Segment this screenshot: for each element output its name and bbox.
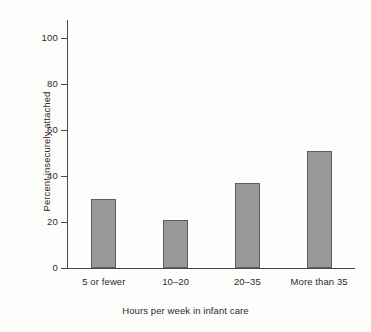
y-axis-tick [61, 38, 67, 39]
y-axis-tick [61, 268, 67, 269]
bar [307, 151, 332, 268]
y-axis-tick-label: 60 [18, 125, 58, 135]
y-axis-tick-label: 0 [18, 263, 58, 273]
plot-area [68, 38, 355, 268]
x-axis-line [67, 268, 355, 269]
y-axis-tick-label: 100 [18, 33, 58, 43]
x-axis-title: Hours per week in infant care [0, 305, 371, 316]
y-axis-tick-label: 20 [18, 217, 58, 227]
y-axis-tick [61, 130, 67, 131]
y-axis-tick-label: 40 [18, 171, 58, 181]
y-axis-tick [61, 84, 67, 85]
y-axis-tick [61, 222, 67, 223]
bar [163, 220, 188, 268]
y-axis-tick-label: 80 [18, 79, 58, 89]
bar [235, 183, 260, 268]
y-axis-tick [61, 176, 67, 177]
x-axis-tick-label: More than 35 [269, 277, 369, 287]
bar [91, 199, 116, 268]
bar-chart: Percent insecurely attached 020406080100… [0, 0, 371, 332]
